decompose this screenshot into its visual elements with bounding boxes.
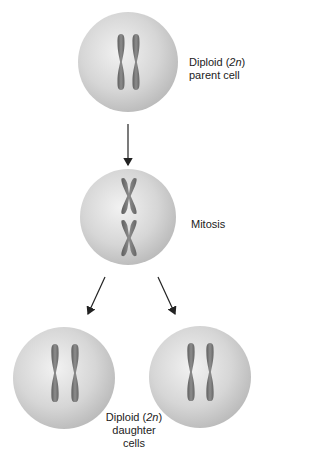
daughter-cells-label: Diploid (2n) daughter cells bbox=[100, 411, 168, 450]
mitosis-label: Mitosis bbox=[191, 218, 225, 231]
arrow-right-icon bbox=[158, 277, 175, 314]
parent-cell-label: Diploid (2n) parent cell bbox=[189, 56, 245, 82]
parent-cell bbox=[78, 12, 178, 112]
arrow-left-icon bbox=[88, 277, 105, 314]
mitosis-cell bbox=[80, 169, 176, 265]
